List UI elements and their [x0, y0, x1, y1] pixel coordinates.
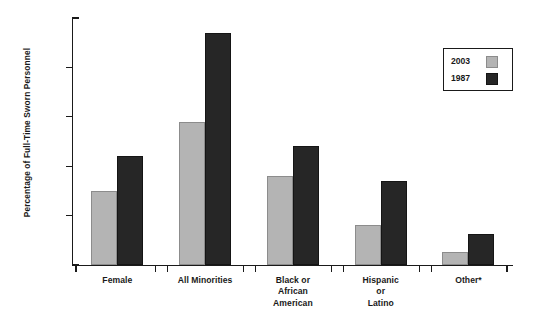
x-tick-mark — [155, 266, 156, 272]
category-label: HispanicorLatino — [337, 275, 425, 309]
category-label-line: All Minorities — [161, 275, 249, 286]
category-label-line: Hispanic — [337, 275, 425, 286]
category-label: Other* — [425, 275, 513, 286]
x-tick-mark — [331, 266, 332, 272]
category-label-line: African — [249, 286, 337, 297]
category-label: Female — [73, 275, 161, 286]
bar-2003-black-or-african-american — [267, 176, 293, 265]
chart-legend: 2003 1987 — [443, 48, 513, 91]
x-tick-mark — [506, 266, 507, 272]
legend-label-1987: 1987 — [451, 74, 481, 83]
y-axis-title: Percentage of Full-Time Sworn Personnel — [18, 0, 36, 265]
x-tick-mark — [255, 266, 256, 272]
x-tick-mark — [343, 266, 344, 272]
category-label-line: Other* — [425, 275, 513, 286]
bar-1987-other — [468, 234, 494, 265]
legend-item-1987: 1987 — [444, 70, 512, 87]
bar-chart-figure: Percentage of Full-Time Sworn Personnel … — [0, 0, 533, 325]
x-tick-mark — [419, 266, 420, 272]
bar-2003-other — [442, 252, 468, 265]
category-label-line: Latino — [337, 298, 425, 309]
x-tick-mark — [75, 266, 76, 272]
legend-label-2003: 2003 — [451, 57, 481, 66]
bar-1987-hispanic-or-latino — [381, 181, 407, 265]
x-axis-line — [72, 265, 513, 266]
category-label-line: Black or — [249, 275, 337, 286]
bar-2003-all-minorities — [179, 122, 205, 265]
y-tick-mark — [66, 215, 73, 216]
category-label: All Minorities — [161, 275, 249, 286]
bar-1987-all-minorities — [205, 33, 231, 265]
x-tick-mark — [167, 266, 168, 272]
category-label-line: or — [337, 286, 425, 297]
y-tick-mark — [66, 116, 73, 117]
bar-1987-black-or-african-american — [293, 146, 319, 265]
category-label: Black orAfricanAmerican — [249, 275, 337, 309]
bar-2003-female — [91, 191, 117, 265]
category-label-line: American — [249, 298, 337, 309]
y-tick-mark — [66, 166, 73, 167]
category-label-line: Female — [73, 275, 161, 286]
x-tick-mark — [431, 266, 432, 272]
x-tick-mark — [243, 266, 244, 272]
legend-item-2003: 2003 — [444, 53, 512, 70]
dark-swatch — [486, 73, 498, 85]
bar-2003-hispanic-or-latino — [355, 225, 381, 265]
light-gray-swatch — [486, 56, 498, 68]
bar-1987-female — [117, 156, 143, 265]
y-tick-mark — [66, 67, 73, 68]
